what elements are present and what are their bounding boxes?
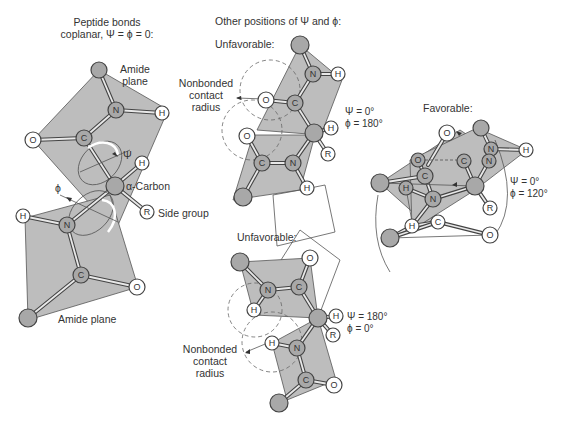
coplanar-title: Peptide bonds coplanar, Ψ = ϕ = 0: bbox=[52, 16, 162, 40]
amide-plane-top-label: Amide plane bbox=[117, 63, 153, 87]
favorable-label: Favorable: bbox=[423, 102, 473, 114]
svg-text:O: O bbox=[330, 380, 337, 390]
svg-text:R: R bbox=[487, 203, 494, 213]
svg-text:N: N bbox=[265, 285, 272, 295]
phi-value-favorable: ϕ = 120° bbox=[510, 188, 548, 200]
side-group-label: Side group bbox=[158, 207, 209, 219]
svg-text:H: H bbox=[20, 211, 27, 221]
svg-text:O: O bbox=[414, 155, 421, 165]
svg-text:H: H bbox=[251, 305, 258, 315]
diagram-graphics: N H O C H R H N C O bbox=[0, 0, 567, 427]
svg-text:N: N bbox=[486, 156, 493, 166]
svg-text:O: O bbox=[29, 135, 36, 145]
nonbonded-contact-radius-label-2: Nonbonded contact radius bbox=[180, 343, 240, 379]
svg-text:H: H bbox=[269, 338, 276, 348]
svg-text:O: O bbox=[443, 128, 450, 138]
svg-text:H: H bbox=[139, 158, 146, 168]
svg-text:H: H bbox=[409, 221, 416, 231]
phi-arrow-icon bbox=[66, 197, 72, 202]
atom-carbon-gray-top bbox=[91, 62, 107, 78]
svg-text:R: R bbox=[330, 330, 337, 340]
svg-text:H: H bbox=[523, 145, 530, 155]
unfavorable-psi0-phi180-figure: N H O C H R O C N H bbox=[222, 36, 345, 246]
svg-text:N: N bbox=[294, 343, 301, 353]
other-positions-title: Other positions of Ψ and ϕ: bbox=[215, 15, 341, 27]
svg-text:R: R bbox=[325, 149, 332, 159]
svg-text:C: C bbox=[435, 217, 442, 227]
svg-text:O: O bbox=[262, 95, 269, 105]
svg-text:C: C bbox=[292, 98, 299, 108]
svg-text:O: O bbox=[243, 131, 250, 141]
svg-text:O: O bbox=[486, 230, 493, 240]
svg-text:H: H bbox=[403, 183, 410, 193]
svg-text:H: H bbox=[304, 183, 311, 193]
unfavorable-label-2: Unfavorable: bbox=[237, 231, 297, 243]
svg-text:R: R bbox=[144, 207, 151, 217]
favorable-psi0-phi120-figure: O N H O C N C H N R H C O bbox=[371, 120, 533, 272]
svg-text:N: N bbox=[310, 69, 317, 79]
svg-text:N: N bbox=[290, 158, 297, 168]
svg-text:C: C bbox=[81, 133, 88, 143]
peptide-conformation-diagram: N H O C H R H N C O bbox=[0, 0, 567, 427]
psi-label: Ψ bbox=[123, 149, 132, 161]
atom-carbon-gray-bottom bbox=[19, 309, 37, 327]
coplanar-peptide-figure: N H O C H R H N C O bbox=[16, 62, 169, 327]
svg-text:H: H bbox=[335, 69, 342, 79]
svg-text:C: C bbox=[259, 158, 266, 168]
svg-text:C: C bbox=[296, 282, 303, 292]
svg-text:N: N bbox=[113, 105, 120, 115]
atom-alpha-carbon bbox=[106, 177, 124, 195]
svg-text:H: H bbox=[159, 108, 166, 118]
svg-text:H: H bbox=[333, 311, 340, 321]
amide-plane-bottom-label: Amide plane bbox=[58, 313, 116, 325]
svg-text:O: O bbox=[133, 282, 140, 292]
svg-text:C: C bbox=[422, 171, 429, 181]
svg-text:N: N bbox=[488, 144, 495, 154]
psi-value-2: Ψ = 180° bbox=[347, 311, 387, 323]
alpha-carbon-label: α-Carbon bbox=[126, 180, 170, 192]
svg-text:N: N bbox=[64, 220, 71, 230]
unfavorable-label-1: Unfavorable: bbox=[215, 38, 275, 50]
svg-text:C: C bbox=[461, 156, 468, 166]
unfavorable-psi180-phi0-figure: O N C H H R H N C O bbox=[228, 230, 343, 412]
svg-text:H: H bbox=[328, 123, 335, 133]
svg-text:N: N bbox=[430, 194, 437, 204]
svg-text:C: C bbox=[303, 375, 310, 385]
phi-value-1: ϕ = 180° bbox=[345, 118, 383, 130]
svg-text:C: C bbox=[78, 270, 85, 280]
phi-value-2: ϕ = 0° bbox=[347, 323, 374, 335]
svg-text:O: O bbox=[306, 253, 313, 263]
nonbonded-contact-radius-label-1: Nonbonded contact radius bbox=[176, 77, 236, 113]
psi-value-1: Ψ = 0° bbox=[345, 106, 374, 118]
phi-label: ϕ bbox=[55, 182, 61, 194]
psi-value-favorable: Ψ = 0° bbox=[510, 176, 539, 188]
